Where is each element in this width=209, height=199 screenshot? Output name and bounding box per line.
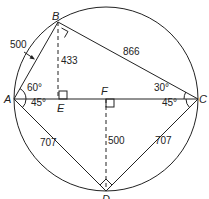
length-label-ab: 500	[10, 39, 27, 50]
point-label-c: C	[199, 93, 207, 105]
length-label-fd: 500	[108, 135, 125, 146]
angle-arc-a-60	[20, 89, 26, 99]
length-label-bc: 866	[123, 46, 140, 57]
right-angle-marker-f	[106, 99, 114, 107]
segment-bc	[58, 22, 198, 99]
angle-arc-c-30	[184, 92, 186, 99]
point-label-b: B	[52, 10, 59, 22]
length-label-be: 433	[61, 55, 78, 66]
point-label-a: A	[3, 93, 11, 105]
right-angle-marker-e	[59, 91, 67, 99]
angle-label-cad: 45°	[31, 97, 46, 108]
point-label-f: F	[101, 85, 109, 97]
angle-arc-c-45	[186, 99, 190, 108]
length-label-ad: 707	[40, 137, 57, 148]
point-label-e: E	[57, 102, 65, 114]
angle-label-bac: 60°	[27, 82, 42, 93]
angle-label-acb: 30°	[154, 82, 169, 93]
angle-arc-a-45	[23, 99, 27, 108]
right-angle-marker-b	[62, 28, 69, 38]
length-label-dc: 707	[155, 135, 172, 146]
point-label-d: D	[102, 193, 110, 199]
circle-geometry-diagram: A B C D E F 500 866 433 707 707 500 60° …	[0, 0, 209, 199]
angle-label-acd: 45°	[162, 97, 177, 108]
